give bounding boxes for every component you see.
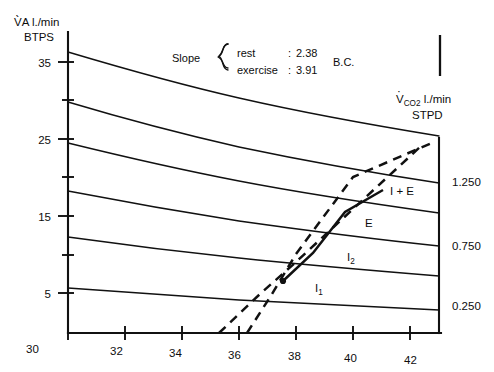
slope-row1-label: rest [237, 47, 255, 59]
x-tick-label-38: 38 [288, 350, 301, 362]
label-i1: I1 [315, 282, 323, 297]
label-i2: I2 [347, 251, 355, 266]
y-tick-label-5: 5 [45, 288, 51, 300]
slope-row1-separator: : [288, 47, 291, 59]
isopleth-curve-3 [68, 191, 439, 246]
right-axis-title-co: CO [404, 99, 416, 108]
left-axis-title-dot: · [15, 9, 19, 21]
label-i2-sub: 2 [350, 257, 355, 266]
right-axis-title-dot: · [397, 85, 401, 97]
right-axis-title-line2: STPD [412, 109, 443, 121]
x-tick-label-42: 42 [404, 354, 417, 366]
y2-tick-label-1250: 1.250 [452, 176, 481, 188]
y-axis-ticks [58, 62, 74, 293]
y2-tick-label-0750: 0.750 [452, 240, 481, 252]
y-tick-label-25: 25 [38, 134, 51, 146]
x-tick-label-36: 36 [228, 349, 241, 361]
y-tick-label-35: 35 [38, 57, 51, 69]
x-tick-label-32: 32 [110, 345, 123, 357]
right-axis-title-unit: l./min [424, 93, 451, 105]
axis-frame [68, 32, 441, 333]
y-tick-label-15: 15 [38, 211, 51, 223]
slope-annotation-title: Slope [172, 52, 200, 64]
chart-figure: V̇A l./min BTPS VCO2 l./min · STPD 35 25… [0, 0, 494, 372]
right-axis-title: VCO2 l./min · STPD [396, 85, 451, 121]
y2-tick-label-0250: 0.250 [452, 300, 481, 312]
subject-initials: B.C. [333, 56, 354, 68]
isopleth-curve-2 [68, 102, 439, 183]
left-axis-title-line1: V̇A l./min [14, 16, 59, 28]
x-tick-label-34: 34 [169, 347, 182, 359]
nomogram-svg: V̇A l./min BTPS VCO2 l./min · STPD 35 25… [0, 0, 494, 372]
slope-row1-value: 2.38 [296, 47, 317, 59]
isopleth-curve-1250 [68, 143, 439, 213]
isopleth-curve-0750 [68, 237, 439, 276]
x-tick-label-40: 40 [344, 352, 357, 364]
y2-tick-labels: 1.250 0.750 0.250 [452, 176, 481, 312]
slope-annotation: Slope rest : 2.38 exercise : 3.91 B.C. [172, 44, 354, 76]
slope-row2-separator: : [288, 64, 291, 76]
slope-row2-value: 3.91 [296, 64, 317, 76]
slope-line-exercise [247, 142, 434, 333]
left-axis-title-line2: BTPS [24, 31, 54, 43]
label-i1-sub: 1 [318, 288, 323, 297]
y-tick-labels: 35 25 15 5 [38, 57, 51, 300]
x-tick-label-30: 30 [26, 343, 39, 355]
x-tick-labels: 30 32 34 36 38 40 42 [26, 343, 417, 366]
label-i-plus-e: I + E [390, 185, 414, 197]
label-e: E [365, 217, 373, 229]
measured-point-marker [280, 278, 286, 284]
right-axis-title-line1: VCO2 l./min [396, 93, 451, 108]
slope-row2-label: exercise [237, 64, 278, 76]
left-axis-title: V̇A l./min BTPS [14, 16, 59, 43]
